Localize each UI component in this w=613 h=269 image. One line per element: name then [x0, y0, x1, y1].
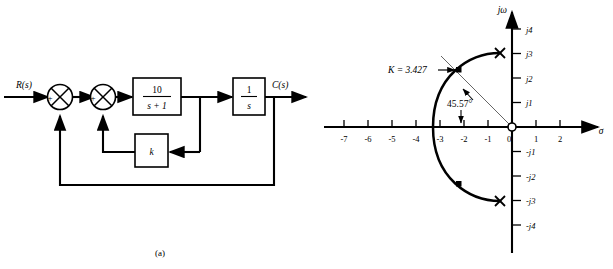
- x-tick-labels: -7 -6 -5 -4 -3 -2 -1 0 1 2: [340, 134, 562, 144]
- operating-point-lower: [456, 181, 462, 187]
- outer-summer-plus: +: [48, 93, 53, 103]
- x-tick-label: 1: [534, 134, 538, 144]
- x-tick-label: -3: [436, 134, 443, 144]
- plant-block-numerator: 10: [152, 85, 162, 95]
- inner-summer-plus: +: [91, 93, 96, 103]
- gain-block: k: [135, 134, 168, 167]
- x-tick-label: -1: [484, 134, 491, 144]
- jomega-axis-label: jω: [496, 5, 508, 15]
- output-label: C(s): [272, 80, 288, 91]
- x-tick-label: -6: [364, 134, 371, 144]
- panel-a-caption: (a): [120, 248, 200, 258]
- x-tick-label: -2: [460, 134, 467, 144]
- gain-annotation-label: K = 3.427: [387, 65, 428, 75]
- angle-annotation-label: 45.57°: [447, 99, 472, 109]
- x-tick-label: 0: [507, 134, 511, 144]
- x-tick-label: -5: [388, 134, 395, 144]
- integrator-block: 1 s: [233, 78, 265, 115]
- plant-block-denominator: s + 1: [147, 101, 167, 111]
- y-tick-label: j2: [525, 74, 533, 84]
- y-tick-label: -j1: [526, 147, 535, 157]
- integrator-block-denominator: s: [247, 101, 251, 111]
- operating-point-upper: [456, 67, 462, 73]
- y-tick-label: -j3: [526, 196, 535, 206]
- y-tick-label: j3: [525, 49, 533, 59]
- x-tick-label: -7: [340, 134, 347, 144]
- y-tick-label: -j2: [526, 172, 536, 182]
- panel-block-diagram: R(s) + − + −: [0, 0, 310, 269]
- plant-block: 10 s + 1: [133, 78, 181, 115]
- gain-to-inner-summer-line: [103, 116, 135, 152]
- constant-damping-ray: [441, 56, 512, 127]
- input-label: R(s): [15, 80, 32, 91]
- panel-root-locus: σ jω -7 -6 -5 -4 -3 -: [310, 0, 613, 269]
- block-diagram-svg: R(s) + − + −: [0, 0, 310, 269]
- y-tick-label: j4: [525, 25, 533, 35]
- integrator-block-numerator: 1: [247, 85, 252, 95]
- outer-summer: + −: [48, 85, 73, 115]
- inner-summer-minus: −: [100, 104, 105, 114]
- x-tick-label: 2: [558, 134, 562, 144]
- inner-summer: + −: [91, 85, 116, 115]
- figure-container: R(s) + − + −: [0, 0, 613, 269]
- root-locus-svg: σ jω -7 -6 -5 -4 -3 -: [310, 0, 613, 269]
- x-tick-label: -4: [412, 134, 420, 144]
- outer-summer-minus: −: [57, 104, 62, 114]
- y-tick-label: -j4: [526, 221, 536, 231]
- y-tick-label: j1: [525, 98, 533, 108]
- zero-marker-origin: [508, 123, 516, 131]
- sigma-axis-label: σ: [599, 126, 604, 136]
